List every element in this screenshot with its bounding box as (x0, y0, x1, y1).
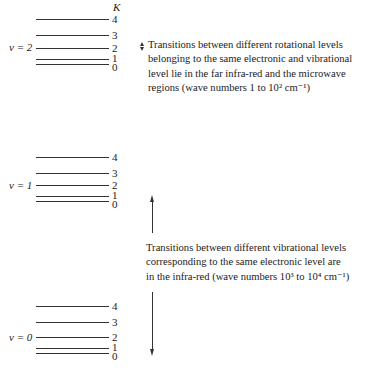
rotational-level-line (36, 353, 109, 354)
rotational-level-line (36, 59, 109, 60)
k-label: 4 (112, 301, 118, 312)
rotational-level-line (36, 348, 109, 349)
rotational-level-line (36, 306, 109, 307)
rotational-level-line (36, 173, 109, 174)
v-label: v = 2 (9, 42, 32, 53)
rotational-level-line (36, 19, 109, 20)
rotational-level-line (36, 322, 109, 323)
k-label: 0 (112, 199, 118, 210)
k-label: 3 (112, 30, 118, 41)
k-label: 4 (112, 14, 118, 25)
rotational-level-line (36, 35, 109, 36)
rotational-level-line (36, 196, 109, 197)
k-label: 0 (112, 351, 118, 362)
rotational-level-line (36, 201, 109, 202)
rotational-level-line (36, 157, 109, 158)
k-label: 4 (112, 152, 118, 163)
v-label: v = 0 (9, 332, 32, 343)
rotational-level-line (36, 48, 109, 49)
rotational-level-line (36, 64, 109, 65)
v-label: v = 1 (9, 180, 32, 191)
vibrational-transition-note: Transitions between different vibrationa… (146, 241, 367, 284)
rotational-level-line (36, 185, 109, 186)
rotational-level-line (36, 337, 109, 338)
k-header: K (113, 2, 120, 13)
k-label: 3 (112, 168, 118, 179)
k-label: 0 (112, 62, 118, 73)
k-label: 3 (112, 317, 118, 328)
rotational-transition-note: Transitions between different rotational… (148, 38, 367, 96)
